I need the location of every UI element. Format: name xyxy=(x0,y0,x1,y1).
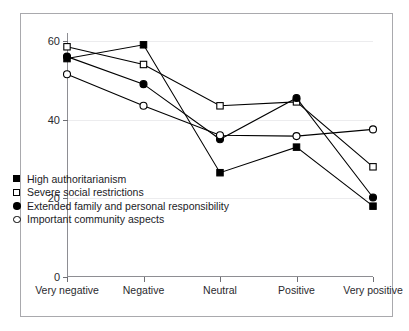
legend-item: High authoritarianism xyxy=(13,172,229,186)
chart-legend: High authoritarianismSevere social restr… xyxy=(13,172,229,226)
legend-item: Severe social restrictions xyxy=(13,186,229,200)
data-point xyxy=(140,102,147,109)
legend-item-label: Severe social restrictions xyxy=(27,187,144,198)
legend-item-label: High authoritarianism xyxy=(27,174,126,185)
x-tick-label-very-positive: Very positive xyxy=(343,285,403,296)
data-point xyxy=(64,53,71,60)
x-tick-label-neutral: Neutral xyxy=(203,285,237,296)
legend-marker-open-circle-icon xyxy=(13,216,27,224)
y-tick-label-0: 0 xyxy=(54,272,60,283)
x-tick-mark-3 xyxy=(297,277,298,282)
data-point xyxy=(293,133,300,140)
legend-marker-filled-circle-icon xyxy=(13,202,27,210)
legend-marker-open-square-icon xyxy=(13,189,27,196)
chart-figure: 0204060 Very negativeNegativeNeutralPosi… xyxy=(0,0,409,331)
legend-item-label: Important community aspects xyxy=(27,214,164,225)
legend-item-label: Extended family and personal responsibil… xyxy=(27,201,229,212)
data-point xyxy=(370,164,376,170)
data-point xyxy=(370,194,377,201)
data-point xyxy=(140,61,146,67)
data-point xyxy=(140,42,146,48)
series-lines xyxy=(67,33,373,277)
x-tick-mark-1 xyxy=(144,277,145,282)
x-tick-label-very-negative: Very negative xyxy=(35,285,99,296)
plot-area: 0204060 Very negativeNegativeNeutralPosi… xyxy=(67,33,373,277)
x-tick-label-positive: Positive xyxy=(278,285,315,296)
data-point xyxy=(64,44,70,50)
legend-marker-filled-square-icon xyxy=(13,175,27,182)
open-circle-icon xyxy=(13,216,21,224)
filled-circle-icon xyxy=(13,202,21,210)
series-severe-social-restrictions xyxy=(64,44,376,170)
data-point xyxy=(217,132,224,139)
legend-item: Extended family and personal responsibil… xyxy=(13,199,229,213)
data-point xyxy=(217,103,223,109)
data-point xyxy=(293,94,300,101)
x-tick-mark-2 xyxy=(220,277,221,282)
open-square-icon xyxy=(13,189,20,196)
legend-item: Important community aspects xyxy=(13,213,229,227)
x-tick-label-negative: Negative xyxy=(123,285,164,296)
x-tick-mark-4 xyxy=(373,277,374,282)
y-tick-label-40: 40 xyxy=(48,114,60,125)
data-point xyxy=(293,144,299,150)
filled-square-icon xyxy=(13,175,20,182)
data-point xyxy=(370,126,377,133)
x-tick-mark-0 xyxy=(67,277,68,282)
y-tick-label-60: 60 xyxy=(48,35,60,46)
data-point xyxy=(370,203,376,209)
data-point xyxy=(140,81,147,88)
data-point xyxy=(64,71,71,78)
